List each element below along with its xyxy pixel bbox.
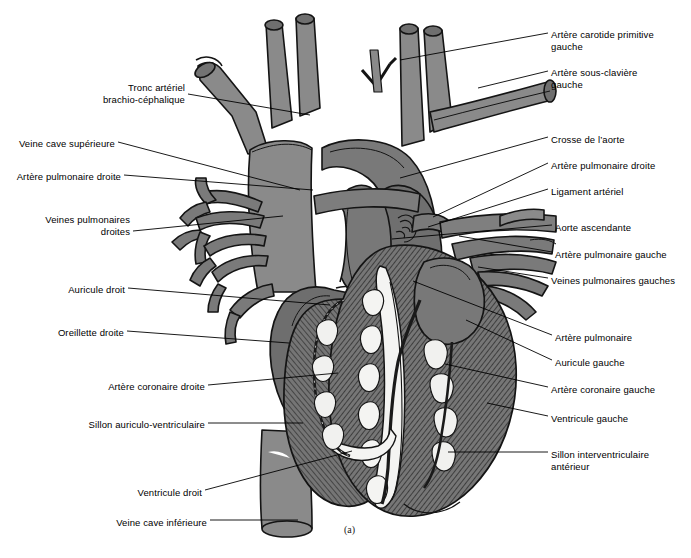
label-line: Artère coronaire droite xyxy=(85,381,205,393)
label-artere-pulmonaire: Artère pulmonaire xyxy=(555,332,632,344)
label-veines-pulmonaires-gauches: Veines pulmonaires gauches xyxy=(551,275,675,287)
label-line: Veines pulmonaires xyxy=(35,214,130,226)
label-line: droites xyxy=(35,226,130,238)
label-line: Artère pulmonaire droite xyxy=(551,160,655,172)
label-ligament-arteriel: Ligament artériel xyxy=(551,186,623,198)
label-line: Oreillette droite xyxy=(34,327,124,339)
label-line: Auricule gauche xyxy=(555,357,625,369)
figure-caption: (a) xyxy=(344,524,355,535)
label-auricule-gauche: Auricule gauche xyxy=(555,357,625,369)
label-line: Artère sous-clavière xyxy=(551,67,637,79)
label-line: Sillon auriculo-ventriculaire xyxy=(55,419,205,431)
label-auricule-droit: Auricule droit xyxy=(50,284,125,296)
label-line: Artère pulmonaire xyxy=(555,332,632,344)
label-line: gauche xyxy=(551,41,654,53)
label-line: Artère carotide primitive xyxy=(551,29,654,41)
label-veine-cave-superieure: Veine cave supérieure xyxy=(5,138,115,150)
label-line: Auricule droit xyxy=(50,284,125,296)
label-line: Artère coronaire gauche xyxy=(551,384,655,396)
label-oreillette-droite: Oreillette droite xyxy=(34,327,124,339)
label-line: antérieur xyxy=(551,461,649,473)
label-aorte-ascendante: Aorte ascendante xyxy=(555,222,631,234)
label-artere-pulmonaire-droite-right: Artère pulmonaire droite xyxy=(551,160,655,172)
label-line: Artère pulmonaire droite xyxy=(0,171,121,183)
label-line: gauche xyxy=(551,79,637,91)
leader-artere-carotide-primitive-gauche xyxy=(400,33,548,60)
label-ventricule-droit: Ventricule droit xyxy=(117,487,202,499)
label-veine-cave-inferieure: Veine cave inférieure xyxy=(97,517,207,529)
label-sillon-interventriculaire-anterieur: Sillon interventriculaireantérieur xyxy=(551,449,649,472)
label-line: Tronc artériel xyxy=(90,82,185,94)
label-tronc-arteriel-brachio-cephalique: Tronc artérielbrachio-céphalique xyxy=(90,82,185,105)
label-line: Artère pulmonaire gauche xyxy=(555,249,667,261)
leader-oreillette-droite xyxy=(127,331,289,343)
label-line: Ventricule gauche xyxy=(551,413,628,425)
label-artere-pulmonaire-gauche: Artère pulmonaire gauche xyxy=(555,249,667,261)
label-crosse-de-l-aorte: Crosse de l’aorte xyxy=(551,134,625,146)
label-artere-coronaire-droite: Artère coronaire droite xyxy=(85,381,205,393)
label-line: Veine cave inférieure xyxy=(97,517,207,529)
label-line: Ligament artériel xyxy=(551,186,623,198)
label-artere-pulmonaire-droite: Artère pulmonaire droite xyxy=(0,171,121,183)
label-line: Crosse de l’aorte xyxy=(551,134,625,146)
label-artere-sous-claviere-gauche: Artère sous-clavièregauche xyxy=(551,67,637,90)
label-line: Veine cave supérieure xyxy=(5,138,115,150)
label-line: brachio-céphalique xyxy=(90,94,185,106)
anatomical-figure-heart: Tronc artérielbrachio-céphaliqueVeine ca… xyxy=(0,0,691,558)
label-ventricule-gauche: Ventricule gauche xyxy=(551,413,628,425)
label-line: Ventricule droit xyxy=(117,487,202,499)
label-line: Veines pulmonaires gauches xyxy=(551,275,675,287)
label-artere-carotide-primitive-gauche: Artère carotide primitivegauche xyxy=(551,29,654,52)
leader-crosse-de-l-aorte xyxy=(400,137,548,178)
label-veines-pulmonaires-droites: Veines pulmonairesdroites xyxy=(35,214,130,237)
label-line: Aorte ascendante xyxy=(555,222,631,234)
label-line: Sillon interventriculaire xyxy=(551,449,649,461)
label-artere-coronaire-gauche: Artère coronaire gauche xyxy=(551,384,655,396)
label-sillon-auriculo-ventriculaire: Sillon auriculo-ventriculaire xyxy=(55,419,205,431)
